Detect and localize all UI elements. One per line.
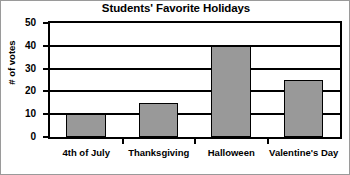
chart-title: Students' Favorite Holidays bbox=[1, 2, 350, 14]
x-axis-category-label: 4th of July bbox=[50, 147, 123, 158]
y-axis-tick-label: 0 bbox=[0, 132, 36, 142]
x-axis-category-label: Valentine's Day bbox=[268, 147, 341, 158]
bar bbox=[211, 46, 251, 137]
y-axis-tick-label: 50 bbox=[0, 18, 36, 28]
bars-layer bbox=[50, 23, 340, 137]
y-axis-tick-label: 20 bbox=[0, 86, 36, 96]
x-axis-tick-mark bbox=[122, 139, 124, 144]
x-axis-category-label: Thanksgiving bbox=[123, 147, 196, 158]
plot-area bbox=[48, 21, 342, 139]
bar bbox=[139, 103, 179, 137]
bar bbox=[284, 80, 324, 137]
y-axis-tick-label: 30 bbox=[0, 64, 36, 74]
x-axis-tick-mark bbox=[194, 139, 196, 144]
bar-chart-figure: Students' Favorite Holidays # of votes 5… bbox=[0, 0, 350, 175]
bar bbox=[66, 114, 106, 137]
y-axis-tick-label: 10 bbox=[0, 109, 36, 119]
x-axis-tick-mark bbox=[267, 139, 269, 144]
y-axis-tick-label: 40 bbox=[0, 41, 36, 51]
x-axis-category-label: Halloween bbox=[195, 147, 268, 158]
